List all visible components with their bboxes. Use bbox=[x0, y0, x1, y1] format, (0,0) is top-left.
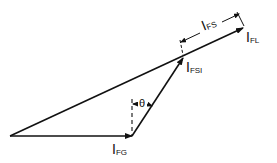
dimension-line-left bbox=[181, 33, 200, 42]
theta-arrow-right bbox=[147, 104, 152, 106]
label-i-fg: IFG bbox=[112, 142, 127, 156]
label-i-fl: IFL bbox=[246, 30, 259, 44]
label-i-fsi: IFSI bbox=[186, 60, 202, 74]
dimension-line-right bbox=[222, 14, 239, 22]
vector-i-fl bbox=[10, 28, 243, 136]
phasor-diagram bbox=[0, 0, 277, 163]
label-theta: θ bbox=[139, 97, 145, 109]
